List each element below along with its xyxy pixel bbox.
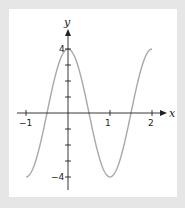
y-tick-label-neg4: −4 [51,172,65,182]
x-tick-label-1: 1 [105,118,111,128]
y-axis-label: y [63,16,71,29]
x-axis-arrow-icon [160,110,167,116]
chart-plot: y x −1 1 2 4 −4 [0,0,185,208]
x-axis-label: x [169,107,176,120]
y-tick-label-4: 4 [59,44,65,54]
x-tick-label-2: 2 [148,118,154,128]
x-tick-label-neg1: −1 [19,118,32,128]
y-axis-arrow-icon [65,29,71,36]
